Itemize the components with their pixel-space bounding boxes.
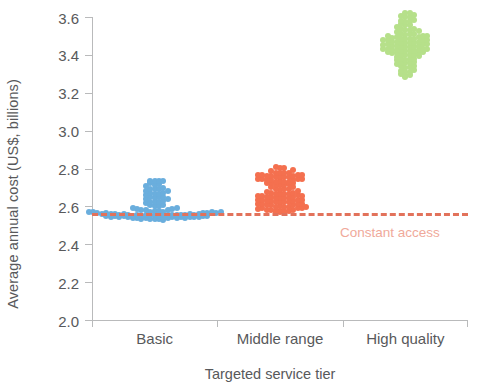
y-tick-label: 3.0	[58, 123, 79, 140]
chart-root: Average annual cost (US$, billions) 2.02…	[0, 0, 478, 388]
constant-access-reference-line	[92, 213, 468, 216]
y-tick: 2.8	[85, 169, 92, 170]
y-tick: 3.4	[85, 55, 92, 56]
y-tick-label: 2.6	[58, 198, 79, 215]
x-tick	[467, 320, 468, 327]
y-tick: 2.0	[85, 320, 92, 321]
y-tick-label: 3.2	[58, 85, 79, 102]
data-point	[411, 26, 417, 32]
x-axis-title: Targeted service tier	[70, 366, 470, 382]
y-tick: 3.0	[85, 131, 92, 132]
x-axis-line	[92, 320, 468, 321]
data-point	[86, 209, 92, 215]
x-tick	[92, 320, 93, 327]
data-point	[424, 33, 430, 39]
y-axis-title: Average annual cost (US$, billions)	[0, 0, 26, 388]
y-tick: 3.2	[85, 93, 92, 94]
y-tick-label: 2.0	[58, 312, 79, 329]
y-tick: 2.2	[85, 282, 92, 283]
y-tick: 2.4	[85, 244, 92, 245]
y-tick-label: 2.8	[58, 161, 79, 178]
x-tick-label-middle-range: Middle range	[237, 330, 324, 347]
y-tick: 2.6	[85, 206, 92, 207]
y-tick-label: 3.4	[58, 47, 79, 64]
data-point	[407, 10, 413, 16]
x-tick	[217, 320, 218, 327]
constant-access-label: Constant access	[340, 225, 440, 240]
y-tick-label: 3.6	[58, 9, 79, 26]
plot-area: 2.02.22.42.62.83.03.23.43.6 Constant acc…	[92, 8, 468, 320]
x-tick-label-basic: Basic	[136, 330, 173, 347]
y-tick-label: 2.2	[58, 274, 79, 291]
x-tick-label-high-quality: High quality	[366, 330, 444, 347]
swarm-group-high-quality	[92, 8, 468, 320]
x-tick	[343, 320, 344, 327]
data-point	[385, 33, 391, 39]
y-tick: 3.6	[85, 17, 92, 18]
y-tick-label: 2.4	[58, 236, 79, 253]
